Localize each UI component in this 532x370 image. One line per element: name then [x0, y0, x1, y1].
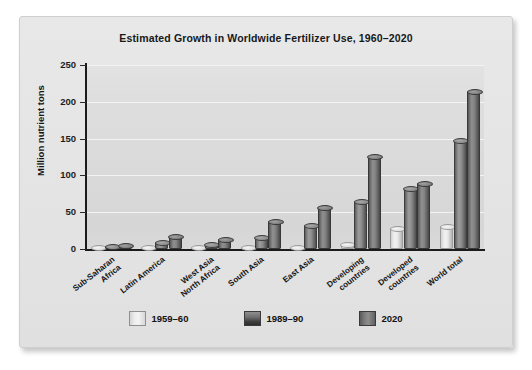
y-tick-mark: [80, 102, 86, 103]
bar-body: [404, 188, 417, 249]
y-tick-label: 150: [42, 133, 76, 144]
y-tick-mark: [80, 139, 86, 140]
bar[interactable]: [218, 239, 231, 249]
bar[interactable]: [255, 237, 268, 249]
legend-swatch-icon: [129, 311, 146, 326]
bar[interactable]: [291, 247, 304, 250]
legend-label: 1959–60: [151, 313, 188, 324]
y-tick-mark: [80, 65, 86, 66]
bar-cap: [118, 243, 134, 249]
bar-cap: [317, 205, 333, 211]
bar-body: [467, 91, 480, 249]
bar[interactable]: [304, 225, 317, 249]
bar-cap: [417, 181, 433, 187]
y-tick-mark: [80, 249, 86, 250]
bar[interactable]: [268, 221, 281, 249]
y-tick-mark: [80, 212, 86, 213]
y-axis-line: [85, 63, 87, 251]
legend-swatch-icon: [359, 311, 376, 326]
legend-label: 2020: [381, 313, 402, 324]
bar[interactable]: [354, 201, 367, 249]
bar[interactable]: [417, 183, 430, 249]
bar[interactable]: [341, 244, 354, 249]
bar[interactable]: [368, 156, 381, 249]
legend-label: 1989–90: [266, 313, 303, 324]
y-tick-mark: [80, 175, 86, 176]
y-tick-label: 200: [42, 96, 76, 107]
bar-cap: [367, 154, 383, 160]
bar-cap: [168, 234, 184, 240]
bar[interactable]: [440, 226, 453, 249]
chart-legend: 1959–60 1989–90 2020: [20, 311, 512, 326]
gridline: [86, 175, 484, 176]
bar[interactable]: [169, 236, 182, 249]
plot-area: [86, 65, 484, 249]
bar-body: [268, 221, 281, 249]
y-tick-label: 50: [42, 206, 76, 217]
y-tick-label: 100: [42, 169, 76, 180]
y-tick-label: 0: [42, 243, 76, 254]
bar[interactable]: [205, 244, 218, 249]
chart-title: Estimated Growth in Worldwide Fertilizer…: [20, 32, 512, 44]
figure-panel: Estimated Growth in Worldwide Fertilizer…: [19, 16, 513, 348]
bar[interactable]: [454, 140, 467, 249]
bar[interactable]: [119, 245, 132, 249]
bar-body: [318, 207, 331, 249]
gridline: [86, 102, 484, 103]
bar-cap: [268, 219, 284, 225]
y-tick-label: 250: [42, 59, 76, 70]
bar-body: [417, 183, 430, 249]
bar[interactable]: [142, 247, 155, 250]
bar[interactable]: [105, 246, 118, 249]
legend-item[interactable]: 1989–90: [244, 311, 303, 326]
bar-body: [368, 156, 381, 249]
bar-body: [454, 140, 467, 249]
bar[interactable]: [241, 247, 254, 250]
bar[interactable]: [390, 228, 403, 249]
bar[interactable]: [404, 188, 417, 249]
legend-item[interactable]: 1959–60: [129, 311, 188, 326]
bar-cap: [467, 89, 483, 95]
bar[interactable]: [467, 91, 480, 249]
legend-item[interactable]: 2020: [359, 311, 402, 326]
bar[interactable]: [318, 207, 331, 249]
bar-body: [354, 201, 367, 249]
legend-swatch-icon: [244, 311, 261, 326]
bar[interactable]: [155, 242, 168, 249]
chart-page: Estimated Growth in Worldwide Fertilizer…: [0, 0, 532, 370]
gridline: [86, 139, 484, 140]
bar[interactable]: [92, 247, 105, 250]
bar[interactable]: [191, 247, 204, 250]
gridline: [86, 65, 484, 66]
